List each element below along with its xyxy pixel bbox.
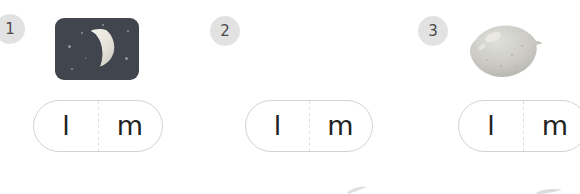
choice-letter-l-3[interactable]: l	[459, 101, 523, 153]
answer-pill-1[interactable]: l m	[33, 100, 163, 152]
star-icon	[71, 68, 73, 70]
worksheet-item-3: 3	[415, 0, 580, 194]
item-number-badge-2: 2	[210, 16, 240, 46]
choice-letter-m-3[interactable]: m	[523, 101, 580, 153]
choice-letter-m-2[interactable]: m	[309, 101, 372, 153]
choice-letter-l-2[interactable]: l	[246, 101, 309, 153]
star-icon	[102, 24, 104, 26]
worksheet: 1 l	[0, 0, 580, 194]
answer-pill-3[interactable]: l m	[458, 100, 580, 152]
star-icon	[127, 30, 129, 32]
picture-moon-night-sky	[55, 18, 139, 80]
item-number-badge-1: 1	[0, 14, 25, 44]
crescent-moon-icon	[81, 29, 115, 67]
star-icon	[125, 57, 128, 60]
next-row-partial-shape	[536, 187, 562, 194]
item-number-badge-3: 3	[418, 16, 448, 46]
next-row-partial-shape	[346, 186, 368, 194]
answer-pill-2[interactable]: l m	[245, 100, 373, 152]
choice-letter-l-1[interactable]: l	[34, 101, 98, 153]
star-icon	[68, 45, 71, 48]
worksheet-item-1: 1 l	[0, 0, 200, 194]
choice-letter-m-1[interactable]: m	[98, 101, 162, 153]
worksheet-item-2: 2 l m	[205, 0, 390, 194]
